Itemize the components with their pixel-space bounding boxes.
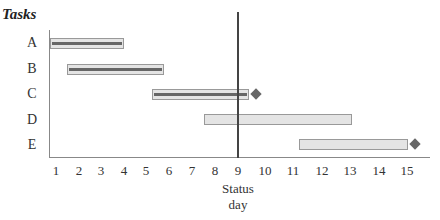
task-label-b: B [22,61,42,77]
status-label-line1: Status [213,181,263,197]
x-tick: 12 [310,163,334,179]
x-tick: 8 [203,163,227,179]
x-tick: 6 [157,163,181,179]
task-label-c: C [22,86,42,102]
x-tick: 9 [226,163,250,179]
status-day-line [237,12,239,158]
task-label-a: A [22,35,42,51]
milestone-diamond-icon [409,138,420,149]
progress-fill [52,42,122,45]
progress-fill [154,93,247,96]
x-tick: 13 [338,163,362,179]
task-bar-b [67,64,164,75]
x-tick: 10 [253,163,277,179]
progress-fill [69,68,162,71]
milestone-diamond-icon [250,88,261,99]
x-tick: 2 [67,163,91,179]
task-bar-a [50,38,124,49]
y-axis [49,30,50,158]
x-tick: 14 [367,163,391,179]
x-tick: 15 [395,163,419,179]
task-bar-d [204,114,352,125]
x-tick: 1 [44,163,68,179]
x-tick: 4 [112,163,136,179]
task-bar-c [152,89,249,100]
x-tick: 7 [180,163,204,179]
x-tick: 11 [281,163,305,179]
x-tick: 5 [134,163,158,179]
x-axis [49,157,430,158]
chart-title: Tasks [2,6,36,23]
task-label-d: D [22,112,42,128]
status-label-line2: day [213,197,263,213]
task-bar-e [299,139,408,150]
x-tick: 3 [89,163,113,179]
task-label-e: E [22,137,42,153]
